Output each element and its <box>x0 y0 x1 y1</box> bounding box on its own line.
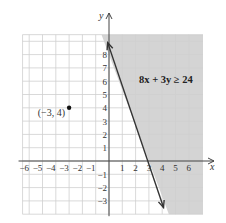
y-tick-label: 5 <box>103 90 108 100</box>
x-tick-label: 2 <box>133 163 138 173</box>
y-tick-label: 3 <box>103 117 108 127</box>
point-marker <box>67 106 71 110</box>
y-tick-label: 2 <box>103 130 108 140</box>
x-tick-label: −6 <box>19 163 29 173</box>
y-tick-label: 8 <box>103 50 108 60</box>
x-tick-label: 4 <box>160 163 165 173</box>
y-tick-label: 1 <box>103 143 108 153</box>
x-tick-label: −3 <box>59 163 69 173</box>
x-tick-label: −2 <box>73 163 83 173</box>
y-tick-label: −2 <box>97 183 107 193</box>
point-label: (−3, 4) <box>38 107 65 119</box>
inequality-label: 8x + 3y ≥ 24 <box>139 74 193 85</box>
y-tick-label: 7 <box>103 63 108 73</box>
x-tick-label: −1 <box>86 163 96 173</box>
inequality-graph: −6−5−4−3−2−1123456−3−2−112345678 (−3, 4)… <box>0 0 226 223</box>
y-tick-label: −3 <box>97 196 107 206</box>
x-tick-label: 1 <box>120 163 125 173</box>
y-axis-label: y <box>98 10 104 21</box>
x-tick-label: −5 <box>33 163 43 173</box>
x-tick-label: 5 <box>173 163 178 173</box>
x-tick-label: 6 <box>187 163 192 173</box>
y-tick-label: 4 <box>103 103 108 113</box>
y-tick-label: 6 <box>103 77 108 87</box>
x-axis-label: x <box>209 161 215 172</box>
x-tick-label: −4 <box>46 163 56 173</box>
y-tick-label: −1 <box>97 170 107 180</box>
